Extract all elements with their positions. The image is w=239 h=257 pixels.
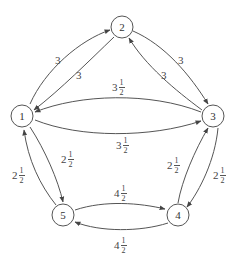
weight-5-to-4: 412 [114,184,127,203]
node-2: 2 [111,16,133,38]
weight-3-to-1: 312 [112,78,125,97]
weight-4-to-3: 212 [167,156,180,175]
weight-2-to-3: 3 [178,55,184,66]
edge-2-to-3 [133,31,208,104]
edge-4-to-3 [178,128,208,203]
node-1: 1 [11,105,33,127]
node-5: 5 [52,204,74,226]
weight-2-to-1: 3 [76,70,82,81]
edge-1-to-5 [30,127,63,202]
node-3: 3 [202,105,224,127]
edge-4-to-5 [75,222,168,230]
edge-5-to-4 [75,203,165,210]
edge-3-to-1 [35,98,201,112]
weight-4-to-5: 412 [114,236,127,255]
svg-text:1: 1 [19,110,25,122]
edge-1-to-3 [35,120,201,134]
weight-1-to-2: 3 [55,55,61,66]
svg-text:4: 4 [175,209,181,221]
weight-1-to-5: 212 [61,150,74,169]
node-4: 4 [167,204,189,226]
svg-text:5: 5 [60,209,66,221]
weight-3-to-2: 3 [161,70,167,81]
weight-5-to-1: 212 [12,166,25,185]
weight-3-to-4: 212 [213,166,226,185]
graph-canvas: 1 2 3 4 5 [0,0,239,257]
edge-2-to-1 [34,37,114,110]
svg-text:2: 2 [119,21,125,33]
weight-1-to-3: 312 [116,136,129,155]
edge-1-to-2 [30,30,110,104]
svg-text:3: 3 [210,110,216,122]
